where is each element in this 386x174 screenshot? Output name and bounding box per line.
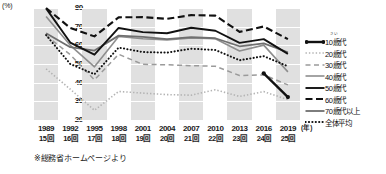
legend-label: 70歳代以上: [325, 105, 360, 116]
legend-label: 40歳代: [325, 71, 346, 82]
gridline: [34, 120, 300, 121]
legend-item[interactable]: 50歳代: [305, 82, 385, 94]
legend-label: 60歳代: [325, 94, 346, 105]
legend-swatch-icon: [305, 117, 325, 127]
legend-swatch-icon: [305, 83, 325, 93]
chart-legend: 10歳代さい20歳代30歳代40歳代50歳代60歳代70歳代以上全体平均: [305, 36, 385, 128]
legend-swatch-icon: [305, 71, 325, 81]
legend-ruby-text: さい: [330, 32, 338, 36]
series-marker: [286, 95, 290, 99]
legend-swatch-icon: [305, 60, 325, 70]
source-footnote: ※総務省ホームページより: [34, 152, 126, 163]
legend-swatch-icon: [305, 48, 325, 58]
legend-item[interactable]: 10歳代さい: [305, 36, 385, 48]
legend-item[interactable]: 全体平均: [305, 117, 385, 129]
legend-item[interactable]: 40歳代: [305, 71, 385, 83]
legend-label: 30歳代: [325, 59, 346, 70]
legend-label: 10歳代さい: [325, 36, 346, 47]
legend-swatch-icon: [305, 94, 325, 104]
y-axis-unit-label: (%): [2, 2, 12, 9]
x-tick-session: 25回: [268, 134, 308, 144]
legend-label: 50歳代: [325, 82, 346, 93]
legend-label: 20歳代: [325, 48, 346, 59]
series-line: [46, 8, 288, 39]
series-layer: [34, 8, 300, 120]
legend-item[interactable]: 60歳代: [305, 94, 385, 106]
series-line: [46, 35, 288, 84]
series-marker: [262, 71, 266, 75]
plot-area: [34, 8, 300, 120]
legend-label: 全体平均: [325, 117, 352, 128]
legend-item[interactable]: 20歳代: [305, 48, 385, 60]
legend-item[interactable]: 70歳代以上: [305, 105, 385, 117]
voter-turnout-chart: (%) 80706050403020 198915回199216回199517回…: [0, 0, 386, 174]
legend-swatch-icon: [305, 106, 325, 116]
legend-swatch-icon: [305, 37, 325, 47]
legend-item[interactable]: 30歳代: [305, 59, 385, 71]
series-line: [46, 69, 288, 110]
